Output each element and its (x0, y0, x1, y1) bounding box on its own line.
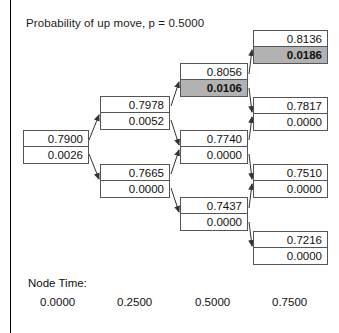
node-value-top: 0.7817 (254, 98, 327, 114)
node-value-bottom: 0.0000 (181, 214, 247, 230)
edge-n2dd-n3ddd (249, 222, 252, 246)
node-value-top: 0.7216 (254, 232, 327, 248)
tree-node-n2ud[interactable]: 0.7740 0.0000 (180, 130, 248, 164)
tree-node-n3udd[interactable]: 0.7510 0.0000 (253, 164, 328, 198)
edge-n1d-n2dd (171, 188, 179, 212)
tree-node-n0[interactable]: 0.7900 0.0026 (23, 130, 89, 164)
tree-node-n1d[interactable]: 0.7665 0.0000 (100, 164, 170, 198)
edge-n2uu-n3uuu (249, 50, 252, 74)
node-value-top: 0.7665 (101, 165, 169, 181)
edge-n2dd-n3udd (249, 184, 252, 208)
node-value-bottom: 0.0000 (254, 181, 327, 197)
tree-diagram-canvas: Probability of up move, p = 0.5000 (0, 0, 339, 333)
node-value-bottom: 0.0000 (254, 114, 327, 130)
axis-tick-2: 0.5000 (195, 296, 230, 308)
axis-tick-1: 0.2500 (117, 296, 152, 308)
node-value-top: 0.7900 (24, 131, 88, 147)
edge-n0-n1d (89, 154, 99, 179)
node-value-top: 0.7437 (181, 198, 247, 214)
node-value-bottom-highlighted: 0.0106 (181, 80, 247, 96)
page-title: Probability of up move, p = 0.5000 (26, 17, 204, 29)
edge-n0-n1u (89, 115, 99, 140)
edge-n2ud-n3udd (249, 154, 252, 179)
node-value-bottom: 0.0000 (181, 147, 247, 163)
node-value-top: 0.7740 (181, 131, 247, 147)
edge-n1d-n2ud (171, 150, 179, 174)
edge-n2ud-n3uud (249, 117, 252, 140)
node-value-top: 0.7510 (254, 165, 327, 181)
node-value-bottom: 0.0052 (101, 113, 169, 129)
node-value-top: 0.8136 (254, 31, 327, 47)
node-value-bottom-highlighted: 0.0186 (254, 47, 327, 63)
edge-n1u-n2ud (171, 120, 179, 145)
axis-tick-3: 0.7500 (272, 296, 307, 308)
node-value-bottom: 0.0000 (254, 248, 327, 264)
tree-node-n3uud[interactable]: 0.7817 0.0000 (253, 97, 328, 131)
tree-node-n3ddd[interactable]: 0.7216 0.0000 (253, 231, 328, 265)
edge-n2uu-n3uud (249, 88, 252, 112)
tree-node-n2dd[interactable]: 0.7437 0.0000 (180, 197, 248, 231)
tree-node-n2uu[interactable]: 0.8056 0.0106 (180, 63, 248, 97)
node-time-label: Node Time: (28, 277, 87, 289)
tree-node-n3uuu[interactable]: 0.8136 0.0186 (253, 30, 328, 64)
node-value-bottom: 0.0000 (101, 181, 169, 197)
node-value-top: 0.7978 (101, 97, 169, 113)
node-value-top: 0.8056 (181, 64, 247, 80)
tree-node-n1u[interactable]: 0.7978 0.0052 (100, 96, 170, 130)
node-value-bottom: 0.0026 (24, 147, 88, 163)
axis-tick-0: 0.0000 (40, 296, 75, 308)
left-border-rule (10, 0, 11, 333)
edge-n1u-n2uu (171, 82, 179, 106)
